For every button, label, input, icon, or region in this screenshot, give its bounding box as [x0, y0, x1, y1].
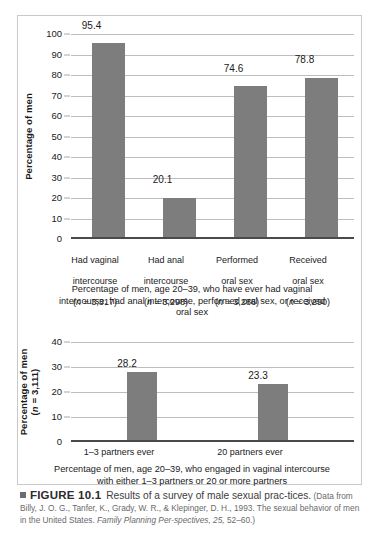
- y-tick-label: 100: [46, 29, 62, 39]
- figure-frame: Percentage of men 100 90 80 70 60 50 40 …: [17, 15, 362, 485]
- y-tick-label: 40: [51, 152, 62, 162]
- bar-value-label: 23.3: [243, 371, 273, 381]
- figure-caption: FIGURE 10.1Results of a survey of male s…: [20, 490, 362, 526]
- x-category-line: Received: [269, 255, 347, 266]
- x-category-line: Had anal: [127, 255, 205, 266]
- figure-label: FIGURE 10.1: [30, 489, 101, 501]
- bottom-chart-y-axis-title-line1: Percentage of men: [18, 349, 29, 436]
- y-tick-label: 40: [51, 337, 62, 347]
- bar-value-label: 20.1: [146, 175, 179, 185]
- bottom-chart-plot-area: [71, 342, 354, 442]
- figure-source-pages: 52–60.): [225, 515, 255, 525]
- gridline: [71, 392, 354, 393]
- figure-source-journal: Family Planning Per-spectives, 25,: [97, 515, 225, 525]
- top-chart-subtitle: Percentage of men, age 20–39, who have e…: [52, 284, 332, 319]
- y-tick-label: 10: [51, 214, 62, 224]
- bar-1-3-partners-ever: [127, 372, 157, 443]
- gridline: [71, 417, 354, 418]
- y-tick-label: 30: [51, 362, 62, 372]
- y-tick-label: 0: [57, 234, 62, 244]
- bar-had-vaginal-intercourse: [92, 43, 125, 239]
- bar-had-anal-intercourse: [163, 198, 196, 239]
- bar-value-label: 28.2: [112, 359, 142, 369]
- top-chart-y-ticks: 100 90 80 70 60 50 40 30 20 10 0: [36, 34, 62, 239]
- y-tick-label: 0: [57, 437, 62, 447]
- top-chart: Percentage of men 100 90 80 70 60 50 40 …: [18, 16, 363, 306]
- bar-received-oral-sex: [305, 78, 338, 240]
- x-category-line: Had vaginal: [56, 255, 134, 266]
- bar-performed-oral-sex: [234, 86, 267, 239]
- square-bullet-icon: [20, 492, 26, 498]
- bottom-chart-subtitle: Percentage of men, age 20–39, who engage…: [52, 464, 332, 487]
- y-tick-label: 80: [51, 70, 62, 80]
- top-chart-y-axis-title: Percentage of men: [23, 93, 34, 180]
- y-tick-label: 10: [51, 412, 62, 422]
- figure-lead-text: Results of a survey of male sexual prac-…: [106, 490, 311, 501]
- x-category-line: Performed: [198, 255, 276, 266]
- gridline: [71, 342, 354, 343]
- y-tick-label: 60: [51, 111, 62, 121]
- bottom-chart-y-ticks: 40 30 20 10 0: [36, 342, 62, 442]
- gridline: [71, 34, 354, 35]
- y-tick-label: 30: [51, 173, 62, 183]
- bar-20-partners-ever: [258, 384, 288, 442]
- bar-value-label: 78.8: [288, 55, 321, 65]
- y-tick-label: 90: [51, 50, 62, 60]
- top-chart-x-axis-line: [71, 237, 354, 239]
- bottom-chart-x-axis-line: [71, 440, 354, 442]
- bottom-chart: Percentage of men (n = 3,111) 40 30 20 1…: [18, 334, 363, 486]
- y-tick-label: 70: [51, 91, 62, 101]
- y-tick-label: 50: [51, 132, 62, 142]
- bar-value-label: 74.6: [217, 64, 250, 74]
- x-category-label: 1–3 partners ever: [59, 447, 179, 458]
- y-tick-label: 20: [51, 193, 62, 203]
- bar-value-label: 95.4: [75, 21, 108, 31]
- top-chart-y-axis-title-wrap: Percentage of men: [20, 34, 36, 239]
- x-category-label: 20 partners ever: [190, 447, 310, 458]
- y-tick-label: 20: [51, 387, 62, 397]
